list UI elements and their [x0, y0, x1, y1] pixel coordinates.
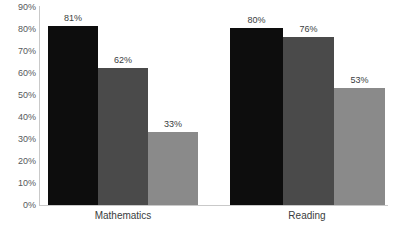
bar-mathematics-3: 33%	[148, 132, 198, 205]
y-tick-label: 0%	[2, 201, 36, 210]
y-tick-label: 10%	[2, 179, 36, 188]
y-tick-label: 40%	[2, 113, 36, 122]
bar-reading-1: 80%	[230, 28, 283, 205]
bar-reading-3: 53%	[334, 88, 385, 205]
y-tick-label: 20%	[2, 157, 36, 166]
x-category-label-reading: Reading	[288, 210, 325, 222]
bar-value-label: 53%	[350, 76, 368, 85]
y-tick-label: 50%	[2, 91, 36, 100]
bar-value-label: 80%	[247, 16, 265, 25]
y-tick-label: 30%	[2, 135, 36, 144]
bar-mathematics-2: 62%	[98, 68, 148, 205]
x-category-label-mathematics: Mathematics	[95, 210, 152, 222]
y-tick-label: 70%	[2, 47, 36, 56]
bar-value-label: 81%	[64, 14, 82, 23]
bar-value-label: 62%	[114, 56, 132, 65]
x-axis-line	[39, 205, 388, 206]
y-tick-label: 90%	[2, 3, 36, 12]
bar-reading-2: 76%	[283, 37, 334, 205]
plot-area: 81% 62% 33% 80% 76% 53%	[40, 6, 388, 205]
y-axis: 90% 80% 70% 60% 50% 40% 30% 20% 10% 0%	[0, 0, 36, 233]
bar-mathematics-1: 81%	[48, 26, 98, 205]
bar-chart: 90% 80% 70% 60% 50% 40% 30% 20% 10% 0% 8…	[0, 0, 395, 233]
y-tick-label: 60%	[2, 69, 36, 78]
bar-value-label: 33%	[164, 120, 182, 129]
bar-value-label: 76%	[299, 25, 317, 34]
y-tick-label: 80%	[2, 25, 36, 34]
